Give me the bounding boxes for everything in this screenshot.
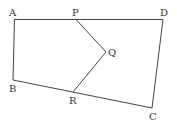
label-A: A [8, 7, 17, 18]
segment-DC [152, 20, 163, 109]
diagram-svg: A P D Q B R C [0, 0, 177, 126]
segment-CB [13, 80, 152, 108]
segment-BA [13, 20, 15, 81]
geometry-diagram: A P D Q B R C [0, 0, 177, 126]
label-P: P [72, 7, 79, 18]
segment-QR [73, 52, 106, 92]
label-R: R [69, 95, 77, 106]
label-B: B [9, 83, 16, 94]
label-Q: Q [108, 47, 116, 58]
label-C: C [149, 111, 157, 122]
segment-PQ [76, 20, 106, 53]
label-D: D [160, 7, 168, 18]
